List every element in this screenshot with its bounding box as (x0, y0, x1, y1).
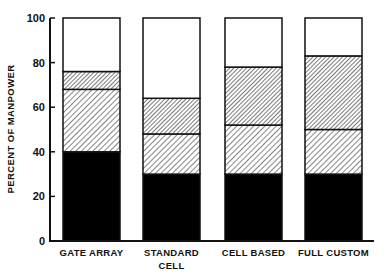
bar-segment-2 (305, 130, 362, 175)
bar-segment-3 (225, 67, 282, 125)
bar-segment-1 (225, 174, 282, 241)
bar-standard-cell (143, 18, 200, 241)
x-category-label: GATE ARRAY (60, 247, 124, 258)
y-tick-label: 0 (39, 235, 45, 247)
x-category-label: CELL (158, 260, 184, 271)
x-category-label: STANDARD (144, 247, 199, 258)
y-axis: 020406080100 (27, 12, 55, 247)
bar-gate-array (63, 18, 120, 241)
y-tick-label: 60 (33, 101, 45, 113)
bar-segment-4 (143, 18, 200, 98)
y-axis-title: PERCENT OF MANPOWER (5, 65, 16, 194)
y-tick-label: 80 (33, 57, 45, 69)
bar-segment-3 (63, 72, 120, 90)
bars (63, 18, 362, 241)
x-category-label: CELL BASED (222, 247, 286, 258)
bar-segment-4 (63, 18, 120, 72)
bar-cell-based (225, 18, 282, 241)
stacked-bar-chart: 020406080100 GATE ARRAYSTANDARDCELLCELL … (0, 0, 386, 279)
x-axis: GATE ARRAYSTANDARDCELLCELL BASEDFULL CUS… (49, 241, 374, 271)
bar-segment-4 (225, 18, 282, 67)
bar-full-custom (305, 18, 362, 241)
bar-segment-1 (305, 174, 362, 241)
bar-segment-1 (63, 152, 120, 241)
bar-segment-2 (143, 134, 200, 174)
bar-segment-2 (63, 89, 120, 151)
x-category-label: FULL CUSTOM (298, 247, 369, 258)
bar-segment-4 (305, 18, 362, 56)
y-tick-label: 20 (33, 190, 45, 202)
y-tick-label: 40 (33, 146, 45, 158)
bar-segment-3 (143, 98, 200, 134)
bar-segment-3 (305, 56, 362, 130)
bar-segment-2 (225, 125, 282, 174)
bar-segment-1 (143, 174, 200, 241)
y-tick-label: 100 (27, 12, 45, 24)
